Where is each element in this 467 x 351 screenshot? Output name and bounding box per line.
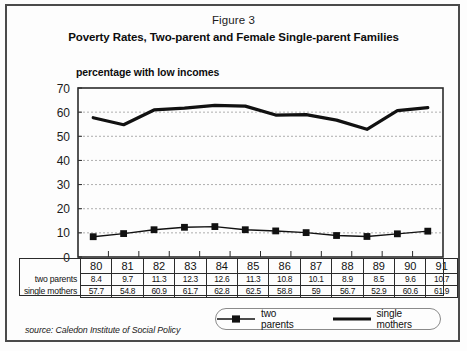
figure-page: Figure 3 Poverty Rates, Two-parent and F… — [0, 0, 467, 351]
value-cell: 60.6 — [395, 286, 426, 298]
data-point-marker — [120, 230, 127, 237]
value-cell: 8.5 — [363, 274, 394, 286]
value-cell: 61.9 — [426, 286, 457, 298]
legend-label: single mothers — [376, 308, 440, 330]
value-cell: 8.9 — [332, 274, 363, 286]
year-cell: 90 — [395, 259, 426, 274]
series-line-single-mothers — [93, 105, 428, 129]
year-cell: 88 — [332, 259, 363, 274]
year-cell: 83 — [175, 259, 206, 274]
y-tick-label-60: 60 — [57, 106, 71, 120]
value-cell: 11.3 — [238, 274, 269, 286]
value-cell: 60.9 — [143, 286, 174, 298]
year-cell: 86 — [269, 259, 300, 274]
legend-item: single mothers — [332, 308, 441, 330]
table-row: 808182838485868788899091 — [19, 259, 457, 274]
value-cell: 56.7 — [332, 286, 363, 298]
year-cell: 84 — [206, 259, 237, 274]
year-cell: 91 — [426, 259, 457, 274]
value-cell: 59 — [300, 286, 331, 298]
year-cell: 87 — [300, 259, 331, 274]
year-cell: 81 — [112, 259, 143, 274]
series-line-two-parents — [93, 227, 428, 237]
legend-swatch-square-line — [216, 313, 256, 325]
y-tick-label-50: 50 — [57, 130, 71, 144]
value-cell: 57.7 — [81, 286, 112, 298]
legend-swatch-thick-line — [332, 313, 372, 325]
y-tick-label-70: 70 — [57, 82, 71, 96]
year-cell: 89 — [363, 259, 394, 274]
year-row-spacer — [19, 259, 81, 274]
value-cell: 52.9 — [363, 286, 394, 298]
y-tick-label-10: 10 — [57, 226, 71, 240]
data-point-marker — [303, 229, 310, 236]
value-cell: 12.3 — [175, 274, 206, 286]
y-tick-label-30: 30 — [57, 178, 71, 192]
value-cell: 62.8 — [206, 286, 237, 298]
row-label-two-parents: two parents — [19, 274, 81, 286]
data-point-marker — [272, 228, 279, 235]
data-point-marker — [90, 233, 97, 240]
y-tick-label-20: 20 — [57, 202, 71, 216]
year-cell: 85 — [238, 259, 269, 274]
data-point-marker — [424, 228, 431, 235]
source-note: source: Caledon Institute of Social Poli… — [25, 325, 180, 335]
data-point-marker — [394, 230, 401, 237]
value-cell: 8.4 — [81, 274, 112, 286]
data-point-marker — [333, 232, 340, 239]
value-cell: 9.6 — [395, 274, 426, 286]
value-cell: 54.8 — [112, 286, 143, 298]
y-tick-label-40: 40 — [57, 154, 71, 168]
value-cell: 9.7 — [112, 274, 143, 286]
data-point-marker — [151, 226, 158, 233]
table-row: two parents8.49.711.312.312.611.310.810.… — [19, 274, 457, 286]
legend-label: two parents — [261, 308, 312, 330]
plot-border — [78, 88, 443, 257]
data-point-marker — [242, 226, 249, 233]
line-chart: 010203040506070 — [0, 0, 467, 351]
data-point-marker — [211, 223, 218, 230]
value-cell: 10.7 — [426, 274, 457, 286]
value-cell: 58.8 — [269, 286, 300, 298]
value-cell: 10.8 — [269, 274, 300, 286]
value-cell: 61.7 — [175, 286, 206, 298]
year-cell: 82 — [143, 259, 174, 274]
value-cell: 62.5 — [238, 286, 269, 298]
data-point-marker — [364, 233, 371, 240]
data-point-marker — [181, 224, 188, 231]
data-table: 808182838485868788899091two parents8.49.… — [19, 258, 458, 298]
value-cell: 11.3 — [143, 274, 174, 286]
value-cell: 12.6 — [206, 274, 237, 286]
table-row: single mothers57.754.860.961.762.862.558… — [19, 286, 457, 298]
table-body: 808182838485868788899091two parents8.49.… — [19, 259, 457, 298]
year-cell: 80 — [81, 259, 112, 274]
legend-item: two parents — [216, 308, 312, 330]
value-cell: 10.1 — [300, 274, 331, 286]
row-label-single-mothers: single mothers — [19, 286, 81, 298]
chart-legend: two parentssingle mothers — [215, 308, 441, 330]
